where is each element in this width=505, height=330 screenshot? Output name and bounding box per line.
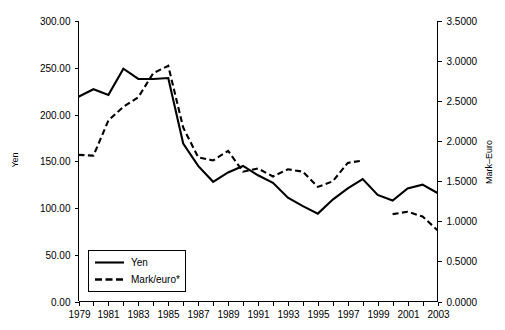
x-tick-label: 2003 [427,309,450,320]
x-tick-label: 1985 [157,309,180,320]
y-tick-label-right: 0.0000 [447,297,478,308]
y-tick-label-right: 3.5000 [447,16,478,27]
y-axis-left-title: Yen [10,152,20,167]
x-tick-label: 1981 [97,309,120,320]
x-tick-label: 1995 [307,309,330,320]
x-tick-label: 1991 [247,309,270,320]
y-tick-label-right: 0.5000 [447,256,478,267]
y-tick-label-left: 250.00 [40,63,71,74]
y-tick-label-left: 100.00 [40,203,71,214]
y-axis-right-title: Mark–Euro [484,140,494,184]
series-line-yen [79,69,438,214]
series-line-mark-euro [79,66,438,230]
y-tick-label-right: 3.0000 [447,56,478,67]
y-tick-label-right: 2.0000 [447,136,478,147]
y-tick-label-left: 200.00 [40,110,71,121]
legend: Yen Mark/euro* [89,251,186,292]
y-axis-left-ticks: 0.0050.00100.00150.00200.00250.00300.00 [40,16,79,308]
x-tick-label: 1987 [187,309,210,320]
data-series-group [79,66,438,230]
exchange-rate-line-chart: 0.0050.00100.00150.00200.00250.00300.00 … [0,0,505,330]
x-tick-label: 1983 [127,309,150,320]
y-tick-label-left: 150.00 [40,156,71,167]
y-tick-label-left: 300.00 [40,16,71,27]
y-tick-label-right: 1.5000 [447,176,478,187]
y-tick-label-left: 0.00 [51,297,71,308]
x-tick-label: 1999 [367,309,390,320]
x-tick-label: 1997 [337,309,360,320]
x-axis-ticks: 1979198119831985198719891991199319951997… [68,302,450,320]
x-tick-label: 2001 [397,309,420,320]
x-tick-label: 1979 [68,309,91,320]
y-tick-label-left: 50.00 [45,250,70,261]
x-tick-label: 1989 [217,309,240,320]
legend-label-mark-euro: Mark/euro* [131,274,180,285]
y-axis-right-ticks: 0.00000.50001.00001.50002.00002.50003.00… [438,16,478,308]
y-tick-label-right: 1.0000 [447,216,478,227]
x-tick-label: 1993 [277,309,300,320]
legend-label-yen: Yen [131,257,148,268]
y-tick-label-right: 2.5000 [447,96,478,107]
chart-container: 0.0050.00100.00150.00200.00250.00300.00 … [0,0,505,330]
